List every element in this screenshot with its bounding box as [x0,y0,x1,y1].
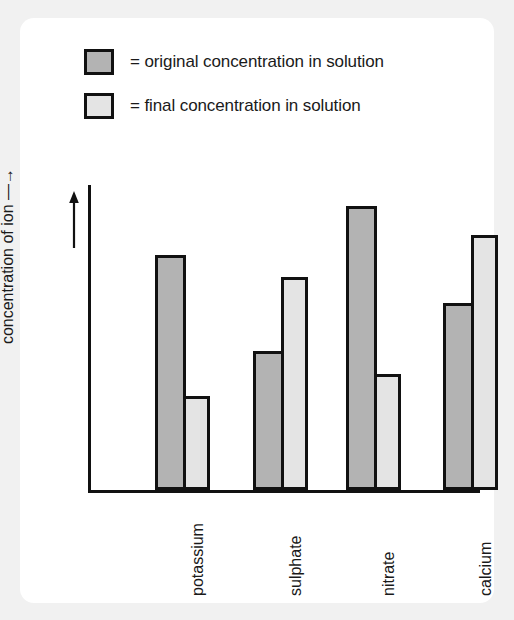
bar-calcium-final [471,235,498,490]
y-axis-label: increasing relative concentration of ion… [0,168,28,468]
bar-group-sulphate [253,178,308,490]
x-tick-label-potassium: potassium [173,500,189,596]
x-tick-label-nitrate: nitrate [364,500,380,596]
plot-area: increasing relative concentration of ion… [20,18,494,603]
up-arrow-icon [68,190,80,250]
bar-potassium-original [155,255,186,490]
bar-sulphate-original [253,351,284,490]
x-axis-line [88,490,480,493]
bar-group-calcium [443,178,498,490]
y-axis-label-line2: concentration of ion —→ [0,168,18,344]
bar-group-nitrate [346,178,401,490]
bar-nitrate-final [374,374,401,490]
bar-sulphate-final [281,277,308,490]
bar-groups [91,178,481,490]
bar-potassium-final [183,396,210,490]
figure-card: = original concentration in solution = f… [20,18,494,603]
bar-group-potassium [155,178,210,490]
x-tick-label-calcium: calcium [461,500,477,596]
bar-nitrate-original [346,206,377,490]
bar-calcium-original [443,303,474,490]
x-tick-label-sulphate: sulphate [271,500,287,596]
x-axis-tick-labels: potassiumsulphatenitratecalcium [91,500,481,600]
